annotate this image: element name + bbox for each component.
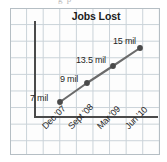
chart-figure: g p Jobs Lost 7 mil 9 mil 13.5 mil 15 mi… [0,0,167,162]
data-label-1: 7 mil [30,93,48,103]
plot-area: Jobs Lost 7 mil 9 mil 13.5 mil 15 mil De… [0,0,167,162]
data-label-2: 9 mil [60,74,78,84]
data-point-2 [84,80,90,86]
data-series-line [0,0,167,162]
data-label-3: 13.5 mil [76,55,106,65]
data-point-3 [110,63,116,69]
data-label-4: 15 mil [113,36,136,46]
data-point-4 [137,45,143,51]
